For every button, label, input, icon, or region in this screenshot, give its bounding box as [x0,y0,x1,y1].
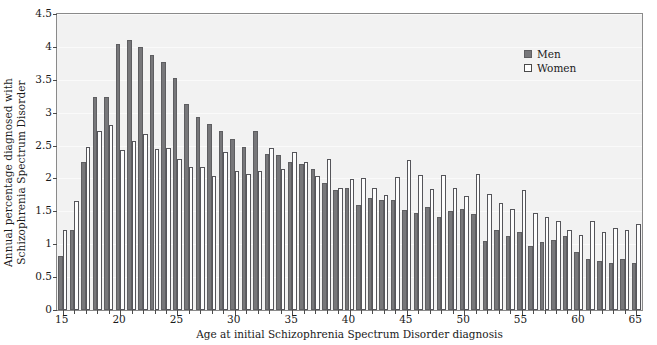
bar-women [109,125,114,310]
y-tick-label: 4 [45,40,52,52]
y-tick-mark [53,47,57,48]
y-tick-mark [53,310,57,311]
bar-women [292,152,297,310]
bar-women [189,167,194,310]
y-axis-title-line1: Annual percentage diagnosed with [2,78,15,267]
legend-label-women: Women [537,62,576,74]
bar-women [143,134,148,310]
bar-women [223,152,228,310]
y-tick-label: 2 [45,171,52,183]
bar-women [602,232,607,310]
bar-women [200,167,205,310]
y-tick-mark [53,178,57,179]
bar-women [636,224,641,310]
bar-women [418,175,423,310]
y-tick-mark [53,14,57,15]
legend-item-women: Women [524,61,576,75]
bar-women [338,188,343,310]
bar-women [499,203,504,310]
y-tick-label: 3 [45,106,52,118]
chart-figure: Annual percentage diagnosed with Schizop… [0,0,657,345]
bar-women [395,177,400,310]
bar-women [545,217,550,310]
bar-women [464,196,469,310]
y-tick-mark [53,146,57,147]
bar-women [567,230,572,310]
bar-women [441,175,446,310]
x-tick-label: 65 [629,313,642,325]
x-tick-label: 25 [170,313,183,325]
y-tick-label: 1 [45,237,52,249]
y-tick-mark [53,80,57,81]
x-tick-label: 55 [514,313,527,325]
x-tick-label: 60 [571,313,584,325]
bar-women [155,149,160,310]
bar-women [177,159,182,310]
y-tick-label: 4.5 [35,7,52,19]
bar-women [315,176,320,310]
bar-women [407,160,412,310]
bar-women [63,230,68,310]
bar-women [327,159,332,310]
y-tick-label: 1.5 [35,204,52,216]
legend-item-men: Men [524,47,576,61]
y-tick-label: 0.5 [35,270,52,282]
y-tick-mark [53,244,57,245]
x-tick-label: 20 [112,313,125,325]
legend-swatch-men-icon [524,50,532,58]
bar-women [510,209,515,310]
bar-women [246,174,251,310]
x-tick-label: 35 [284,313,297,325]
bar-women [212,176,217,310]
bar-women [590,221,595,310]
legend-swatch-women-icon [524,64,532,72]
legend-label-men: Men [537,48,561,60]
bar-women [384,195,389,310]
bar-women [361,178,366,310]
y-tick-label: 2.5 [35,139,52,151]
x-tick-label: 15 [55,313,68,325]
bar-women [533,213,538,310]
bar-women [132,141,137,310]
x-axis-title: Age at initial Schizophrenia Spectrum Di… [56,328,643,340]
bar-women [166,148,171,310]
x-axis-tick-labels: 1520253035404550556065 [56,313,643,329]
y-tick-mark [53,211,57,212]
bar-women [281,169,286,310]
x-tick-label: 50 [457,313,470,325]
bar-women [487,194,492,310]
bar-women [74,201,79,310]
y-tick-label: 3.5 [35,73,52,85]
bar-women [556,221,561,310]
y-tick-mark [53,113,57,114]
bar-women [522,190,527,310]
y-tick-label: 0 [45,303,52,315]
chart-legend: Men Women [524,47,576,75]
bar-women [430,189,435,310]
y-tick-mark [53,277,57,278]
bar-women [97,131,102,310]
bar-women [258,171,263,310]
bar-women [304,162,309,310]
x-tick-label: 45 [399,313,412,325]
bar-women [350,179,355,310]
bar-women [476,174,481,310]
bar-women [235,171,240,310]
bar-women [269,148,274,310]
bar-women [372,188,377,310]
y-axis-tick-labels: 00.511.522.533.544.5 [26,0,52,345]
bar-women [120,150,125,310]
bar-women [453,188,458,310]
bar-women [579,235,584,310]
x-tick-label: 40 [342,313,355,325]
x-tick-label: 30 [227,313,240,325]
bar-women [625,230,630,310]
bar-women [86,147,91,310]
bar-women [613,228,618,310]
